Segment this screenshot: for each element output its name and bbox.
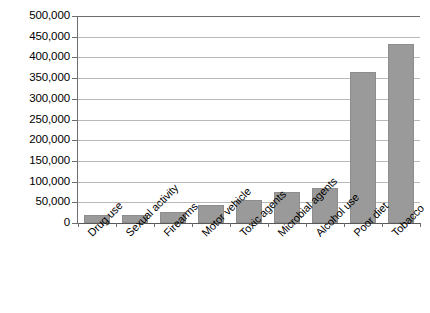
y-axis-tick	[72, 223, 77, 224]
gridline	[78, 16, 420, 17]
x-axis-tick	[154, 223, 155, 227]
y-axis-tick	[72, 182, 77, 183]
bar	[388, 44, 414, 223]
x-axis-tick	[116, 223, 117, 227]
x-axis-tick	[382, 223, 383, 227]
x-axis-tick	[268, 223, 269, 227]
x-axis-tick	[230, 223, 231, 227]
y-axis-label: 100,000	[0, 176, 70, 188]
y-axis-tick	[72, 120, 77, 121]
y-axis-label: 250,000	[0, 114, 70, 126]
y-axis-label: 200,000	[0, 134, 70, 146]
y-axis-tick	[72, 16, 77, 17]
x-axis-tick	[344, 223, 345, 227]
y-axis-label: 50,000	[0, 196, 70, 208]
bar-chart: 500,000450,000400,000350,000300,000250,0…	[0, 0, 430, 313]
y-axis-tick	[72, 202, 77, 203]
x-axis-tick	[306, 223, 307, 227]
y-axis-tick	[72, 78, 77, 79]
y-axis-label: 350,000	[0, 72, 70, 84]
y-axis-tick	[72, 37, 77, 38]
x-axis-tick	[78, 223, 79, 227]
y-axis-tick	[72, 99, 77, 100]
x-axis-tick	[192, 223, 193, 227]
y-axis-tick	[72, 161, 77, 162]
y-axis-tick	[72, 140, 77, 141]
y-axis-label: 150,000	[0, 155, 70, 167]
y-axis-label: 300,000	[0, 93, 70, 105]
gridline	[78, 57, 420, 58]
y-axis-tick	[72, 57, 77, 58]
y-axis-label: 400,000	[0, 51, 70, 63]
gridline	[78, 37, 420, 38]
y-axis-label: 500,000	[0, 10, 70, 22]
y-axis-label: 0	[0, 217, 70, 229]
y-axis-label: 450,000	[0, 31, 70, 43]
x-axis-tick	[420, 223, 421, 227]
